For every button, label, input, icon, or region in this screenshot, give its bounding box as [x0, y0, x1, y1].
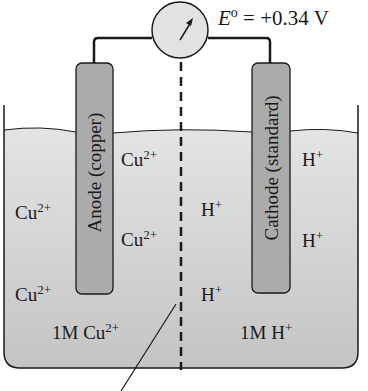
ion-base: H — [302, 149, 316, 170]
ion-charge: + — [316, 228, 323, 243]
ion-h-1: H+ — [302, 150, 323, 169]
ion-charge: + — [215, 282, 222, 297]
ion-base: Cu — [15, 202, 37, 223]
ion-cu-2: Cu2+ — [15, 203, 51, 222]
voltage-value: = +0.34 V — [243, 6, 329, 30]
ion-base: H — [201, 284, 215, 305]
ion-base: Cu — [121, 149, 143, 170]
cathode-label: Cathode (standard) — [262, 115, 281, 241]
concentration-base: 1M H — [240, 322, 285, 343]
wire-right — [208, 38, 270, 63]
ion-base: H — [302, 230, 316, 251]
ion-charge: + — [215, 197, 222, 212]
ion-charge: 2+ — [37, 200, 51, 215]
voltage-label: Eo = +0.34 V — [218, 8, 329, 29]
ion-charge: 2+ — [143, 147, 157, 162]
ion-cu-4: Cu2+ — [15, 285, 51, 304]
voltage-superscript: o — [231, 5, 238, 20]
ion-base: H — [201, 199, 215, 220]
ion-h-4: H+ — [201, 285, 222, 304]
ion-charge: 2+ — [37, 282, 51, 297]
ion-base: Cu — [121, 229, 143, 250]
voltage-symbol: E — [218, 6, 231, 30]
ion-cu-1: Cu2+ — [121, 150, 157, 169]
ion-charge: 2+ — [143, 227, 157, 242]
concentration-base: 1M Cu — [52, 322, 105, 343]
wire-left — [94, 38, 152, 63]
ion-h-2: H+ — [201, 200, 222, 219]
concentration-left: 1M Cu2+ — [52, 323, 119, 342]
ion-base: Cu — [15, 284, 37, 305]
concentration-charge: 2+ — [105, 320, 119, 335]
anode-label: Anode (copper) — [85, 123, 104, 233]
ion-charge: + — [316, 147, 323, 162]
concentration-right: 1M H+ — [240, 323, 292, 342]
ion-h-3: H+ — [302, 231, 323, 250]
ion-cu-3: Cu2+ — [121, 230, 157, 249]
concentration-charge: + — [285, 320, 292, 335]
voltmeter — [152, 2, 208, 58]
